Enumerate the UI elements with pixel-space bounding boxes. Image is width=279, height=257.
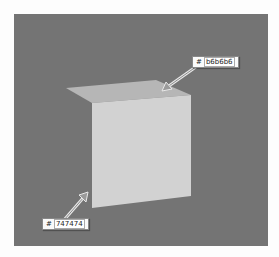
color-value-top: b6b6b6 [204,57,235,67]
arrow-top-icon [162,64,200,91]
color-label-background: #747474 [42,218,89,230]
color-label-top: #b6b6b6 [192,56,239,68]
arrow-background-icon [64,192,88,220]
cube-front-face [92,95,191,208]
color-value-background: 747474 [54,219,85,229]
